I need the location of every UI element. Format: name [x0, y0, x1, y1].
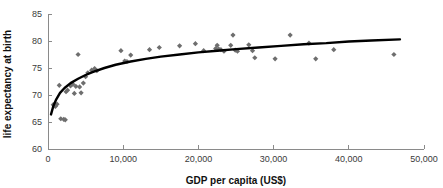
y-tick-label: 80 [32, 36, 42, 46]
data-point [118, 48, 123, 53]
y-tick-label: 60 [32, 144, 42, 154]
data-point [147, 47, 152, 52]
trend-line [51, 39, 400, 114]
data-point [81, 81, 86, 86]
y-tick-label: 65 [32, 117, 42, 127]
y-tick-label: 75 [32, 63, 42, 73]
x-tick-label: 50,000 [410, 154, 438, 164]
scatter-plot: 010,00020,00030,00040,00050,000 60657075… [0, 0, 443, 188]
data-point [230, 32, 235, 37]
data-point [77, 84, 82, 89]
y-tick-label: 85 [32, 9, 42, 19]
data-point [177, 43, 182, 48]
x-tick-labels: 010,00020,00030,00040,00050,000 [45, 154, 437, 164]
data-point [128, 52, 133, 57]
fit-curve-path [51, 39, 400, 114]
chart-figure: 010,00020,00030,00040,00050,000 60657075… [0, 0, 443, 188]
data-point [193, 41, 198, 46]
data-point [75, 52, 80, 57]
x-axis-title: GDP per capita (US$) [186, 175, 286, 186]
data-point [246, 42, 251, 47]
data-point [273, 56, 278, 61]
y-tick-labels: 606570758085 [32, 9, 42, 154]
data-point [72, 91, 77, 96]
data-point [313, 56, 318, 61]
data-point [331, 47, 336, 52]
x-tick-label: 40,000 [335, 154, 363, 164]
data-point [288, 32, 293, 37]
y-axis-title: life expectancy at birth [2, 30, 13, 138]
data-points [51, 32, 397, 122]
data-point [391, 52, 396, 57]
data-point [252, 55, 257, 60]
x-tick-label: 10,000 [109, 154, 137, 164]
data-point [228, 43, 233, 48]
tick-marks [48, 14, 424, 149]
data-point [157, 45, 162, 50]
x-tick-label: 20,000 [185, 154, 213, 164]
x-tick-label: 0 [45, 154, 50, 164]
y-tick-label: 70 [32, 90, 42, 100]
data-point [57, 83, 62, 88]
x-tick-label: 30,000 [260, 154, 288, 164]
axes [48, 14, 424, 149]
data-point [78, 90, 83, 95]
